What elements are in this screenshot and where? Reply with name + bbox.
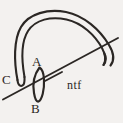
label-b: B <box>31 102 40 115</box>
outer-arch-strand <box>15 11 113 80</box>
hairpin-turn-icon <box>18 77 25 86</box>
label-a: A <box>32 55 41 68</box>
label-c: C <box>2 73 11 86</box>
knot-diagram-figure: A B C ntf <box>0 0 123 123</box>
diagram-canvas <box>0 0 123 123</box>
label-ntf-annotation: ntf <box>67 79 82 91</box>
bigon-lens-region <box>34 68 45 102</box>
